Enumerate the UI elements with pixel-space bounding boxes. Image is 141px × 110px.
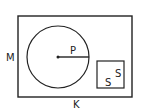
geometry-diagram: M K P S S [0, 0, 141, 110]
label-s-right: S [115, 68, 121, 79]
label-p: P [70, 45, 76, 56]
label-k: K [73, 99, 80, 110]
label-s-bottom: S [105, 77, 111, 88]
label-m: M [6, 52, 15, 63]
